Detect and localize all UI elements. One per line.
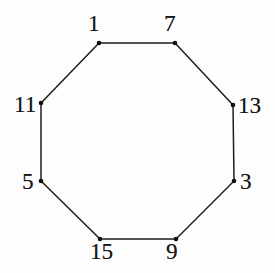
vertex-label-9: 9 [166, 240, 178, 263]
vertex-dot [232, 179, 237, 184]
vertex-dot-group [39, 41, 237, 242]
octagon-edge [176, 181, 234, 239]
vertex-dot [231, 103, 236, 108]
octagon-figure: 17133915511 [0, 0, 275, 273]
octagon-edge [175, 43, 233, 105]
vertex-label-3: 3 [240, 170, 252, 193]
octagon-edge [41, 181, 100, 239]
vertex-dot [97, 41, 102, 46]
octagon-edge [233, 105, 234, 181]
vertex-dot [173, 41, 178, 46]
octagon-edge [41, 43, 99, 103]
vertex-label-5: 5 [22, 170, 34, 193]
vertex-dot [39, 179, 44, 184]
vertex-label-7: 7 [164, 12, 176, 35]
octagon-drawing [0, 0, 275, 273]
vertex-label-11: 11 [14, 93, 36, 116]
vertex-dot [39, 101, 44, 106]
vertex-label-13: 13 [238, 94, 261, 117]
vertex-label-15: 15 [90, 240, 113, 263]
edge-group [41, 43, 234, 239]
vertex-label-1: 1 [88, 12, 100, 35]
